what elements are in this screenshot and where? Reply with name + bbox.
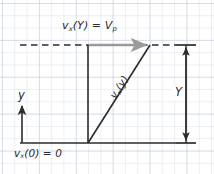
top-plate-velocity-label: vx(Y) = Vp <box>62 20 117 32</box>
gap-dimension-label: Y <box>172 86 185 100</box>
top-label-rhs-sub: p <box>112 25 116 33</box>
top-label-arg: (Y) = <box>73 19 105 32</box>
y-axis-label: y <box>18 90 25 102</box>
bottom-label-rest: (0) = 0 <box>24 147 62 159</box>
bottom-plate-velocity-label: vx(0) = 0 <box>14 148 62 160</box>
velocity-profile-figure: vx(Y) = Vp vx(0) = 0 vx(y) y Y <box>0 0 214 174</box>
top-label-var: v <box>62 19 69 32</box>
